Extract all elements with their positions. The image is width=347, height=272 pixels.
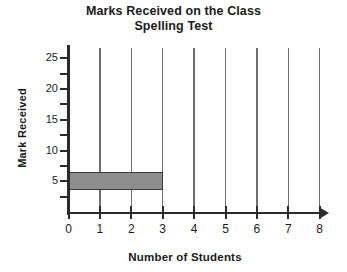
y-tick-7.5: [60, 165, 70, 167]
plot-area: 510152025 012345678: [0, 0, 347, 272]
x-tick-3: [162, 206, 164, 219]
y-tick-label-20: 20: [32, 82, 58, 94]
x-tick-label-4: 4: [184, 222, 204, 236]
y-tick-17.5: [60, 103, 70, 105]
x-tick-label-6: 6: [247, 222, 267, 236]
y-tick-25: [60, 57, 70, 59]
y-tick-15: [60, 119, 70, 121]
y-axis-line: [67, 45, 70, 215]
y-tick-label-15: 15: [32, 113, 58, 125]
x-tick-label-7: 7: [278, 222, 298, 236]
x-tick-0: [68, 206, 70, 219]
gridline-x-7: [288, 48, 290, 212]
x-tick-label-3: 3: [153, 222, 173, 236]
x-tick-6: [256, 206, 258, 219]
y-tick-label-25: 25: [32, 51, 58, 63]
bar-mark-5: [69, 172, 163, 190]
y-tick-5: [60, 180, 70, 182]
x-tick-label-2: 2: [121, 222, 141, 236]
y-tick-2.5: [60, 196, 70, 198]
gridline-x-5: [225, 48, 227, 212]
x-tick-label-0: 0: [59, 222, 79, 236]
y-tick-label-10: 10: [32, 144, 58, 156]
y-tick-22.5: [60, 73, 70, 75]
x-tick-1: [99, 206, 101, 219]
y-tick-20: [60, 88, 70, 90]
gridline-x-4: [193, 48, 195, 212]
x-tick-7: [287, 206, 289, 219]
gridline-x-6: [256, 48, 258, 212]
x-tick-label-1: 1: [90, 222, 110, 236]
x-tick-4: [193, 206, 195, 219]
x-tick-label-5: 5: [216, 222, 236, 236]
spelling-test-bar-chart: Marks Received on the Class Spelling Tes…: [0, 0, 347, 272]
x-tick-2: [130, 206, 132, 219]
x-tick-label-8: 8: [310, 222, 330, 236]
gridline-x-8: [319, 48, 321, 212]
y-tick-label-5: 5: [32, 174, 58, 186]
x-tick-8: [319, 206, 321, 219]
x-tick-5: [225, 206, 227, 219]
y-tick-12.5: [60, 134, 70, 136]
y-tick-10: [60, 150, 70, 152]
